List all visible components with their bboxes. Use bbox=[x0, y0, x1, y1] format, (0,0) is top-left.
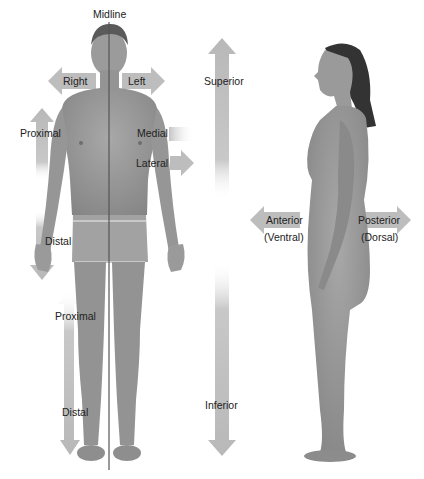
lateral-label: Lateral bbox=[136, 158, 168, 169]
anterior-label: Anterior bbox=[266, 215, 303, 226]
posterior-label: Posterior bbox=[358, 215, 400, 226]
inferior-label: Inferior bbox=[205, 400, 238, 411]
distal-leg-label: Distal bbox=[62, 407, 88, 418]
left-label: Left bbox=[128, 76, 146, 87]
ventral-label: (Ventral) bbox=[264, 232, 304, 243]
medial-label: Medial bbox=[137, 128, 168, 139]
proximal-leg-label: Proximal bbox=[55, 311, 96, 322]
proximal-arm-label: Proximal bbox=[20, 128, 61, 139]
medial-lateral-arrows bbox=[169, 127, 194, 176]
right-label: Right bbox=[63, 76, 88, 87]
superior-label: Superior bbox=[204, 76, 244, 87]
female-side-figure bbox=[304, 43, 376, 462]
distal-arm-label: Distal bbox=[45, 236, 71, 247]
dorsal-label: (Dorsal) bbox=[361, 232, 398, 243]
superior-inferior-arrow bbox=[208, 38, 236, 456]
midline-label: Midline bbox=[93, 9, 126, 20]
